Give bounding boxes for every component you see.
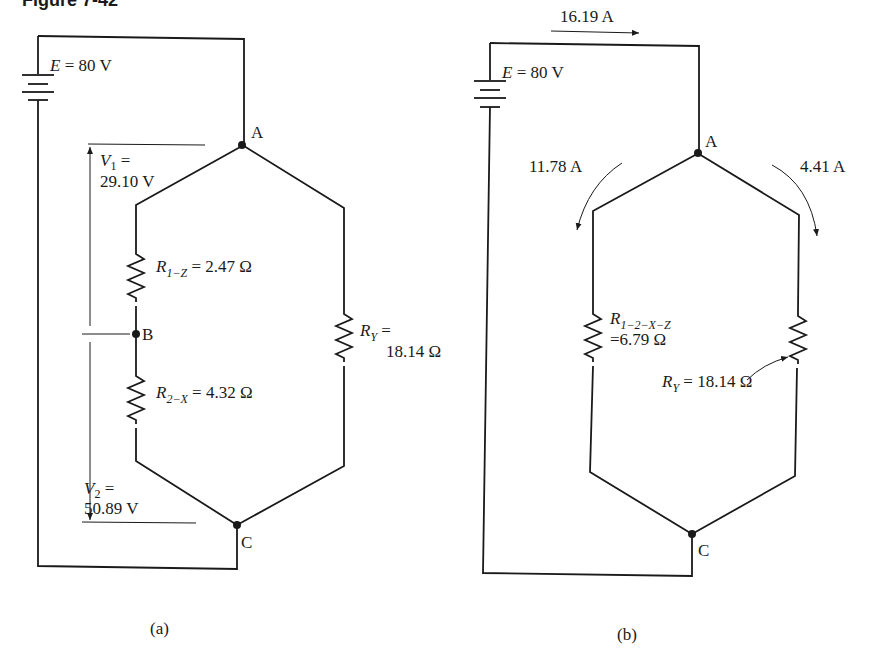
ry-pointer-arrow-icon	[747, 357, 788, 380]
r1z-label: R1−Z = 2.47 Ω	[155, 257, 252, 280]
figure-title: Figure 7-42	[22, 0, 118, 10]
wire-a-left	[136, 146, 242, 250]
node-a-label: A	[251, 123, 264, 142]
ry-value-a: 18.14 Ω	[386, 342, 441, 361]
v1-top-extension	[88, 144, 205, 145]
resistor-r1z-icon	[128, 250, 144, 302]
node-b-label: B	[142, 325, 153, 344]
node-c-label-b: C	[698, 541, 709, 560]
r12xz-value: =6.79 Ω	[610, 330, 666, 349]
v2-value: 50.89 V	[84, 499, 139, 518]
panel-a: E = 80 V A B C V1 = 29.10 V R1−Z = 2.47 …	[22, 36, 441, 638]
wire-ry-c-b	[692, 368, 797, 534]
r2x-label: R2−X = 4.32 Ω	[155, 383, 253, 406]
resistor-r2x-icon	[128, 372, 144, 424]
source-label-a: E = 80 V	[49, 56, 112, 75]
battery-icon	[474, 81, 506, 107]
panel-b: 16.19 A E = 80 V A C 11.78 A 4.41 A R1−2…	[474, 7, 846, 644]
circuit-figure: Figure 7-42 E = 80 V	[0, 0, 874, 667]
caption-b: (b)	[617, 625, 637, 644]
left-current-label: 11.78 A	[529, 157, 583, 176]
node-a-label-b: A	[705, 132, 718, 151]
total-current-label: 16.19 A	[560, 7, 615, 26]
v2-label: V2 =	[84, 479, 114, 501]
v1-value: 29.10 V	[100, 172, 155, 191]
resistor-ry-b-icon	[790, 312, 806, 364]
node-c-label: C	[241, 533, 252, 552]
resistor-r12xz-icon	[585, 310, 601, 362]
node-a-dot-b	[694, 149, 702, 157]
wire-ry-c	[237, 366, 344, 525]
v1-label: V1 =	[100, 151, 130, 173]
wire-a-right	[244, 146, 344, 310]
r12xz-label: R1−2−X−Z	[609, 309, 671, 332]
node-c-dot-b	[688, 530, 696, 538]
ry-label-b: RY = 18.14 Ω	[661, 372, 752, 395]
node-a-dot	[238, 141, 246, 149]
ry-label-a: RY =	[359, 321, 391, 344]
resistor-ry-icon	[336, 310, 352, 362]
source-label-b: E = 80 V	[501, 63, 564, 82]
caption-a: (a)	[150, 619, 169, 638]
wire-a-left-b	[593, 154, 697, 310]
v2-bottom-extension	[82, 522, 196, 523]
node-b-dot	[132, 330, 140, 338]
total-current-arrow-icon	[551, 31, 639, 33]
left-current-arrow-icon	[577, 163, 622, 230]
right-current-label: 4.41 A	[800, 157, 846, 176]
wire-top-b	[490, 43, 699, 152]
node-c-dot	[233, 521, 241, 529]
wire-top-a	[38, 36, 244, 145]
wire-r2-c	[136, 428, 237, 525]
battery-icon	[22, 75, 54, 100]
wire-a-right-b	[699, 154, 799, 312]
